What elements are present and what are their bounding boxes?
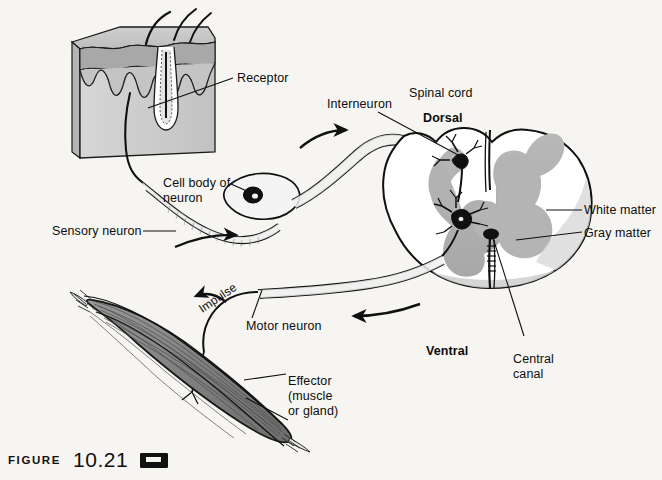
label-effector-line2: (muscle bbox=[288, 389, 332, 403]
label-interneuron: Interneuron bbox=[327, 97, 392, 111]
label-ventral: Ventral bbox=[426, 344, 468, 358]
label-cell-body-line2: neuron bbox=[163, 191, 203, 205]
label-motor-neuron: Motor neuron bbox=[246, 319, 322, 333]
figure-caption-number: 10.21 bbox=[73, 448, 128, 472]
muscle-effector bbox=[70, 290, 310, 452]
label-gray-matter: Gray matter bbox=[584, 226, 651, 240]
label-sensory-neuron: Sensory neuron bbox=[52, 224, 142, 238]
label-receptor: Receptor bbox=[237, 71, 289, 85]
skin-block-diagram bbox=[72, 9, 233, 182]
figure-panel: Receptor Interneuron Spinal cord Dorsal … bbox=[0, 0, 662, 480]
figure-caption-word: Figure bbox=[8, 454, 61, 466]
label-cell-body-line1: Cell body of bbox=[163, 176, 230, 190]
label-central-canal-line2: canal bbox=[513, 367, 543, 381]
label-white-matter: White matter bbox=[584, 203, 656, 217]
label-central-canal-line1: Central bbox=[513, 352, 554, 366]
label-spinal-cord: Spinal cord bbox=[409, 86, 473, 100]
figure-caption: Figure 10.21 bbox=[8, 448, 168, 472]
label-dorsal: Dorsal bbox=[423, 111, 463, 125]
label-effector-line3: or gland) bbox=[288, 404, 338, 418]
media-cassette-icon bbox=[140, 453, 168, 468]
spinal-cord-cross-section bbox=[378, 112, 592, 336]
label-effector-line1: Effector bbox=[288, 374, 332, 388]
